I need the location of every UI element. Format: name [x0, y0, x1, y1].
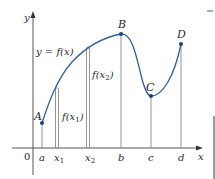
point-B — [119, 32, 123, 36]
label-C: C — [146, 81, 155, 94]
tick-a: a — [39, 152, 45, 163]
y-axis-arrow-icon — [31, 11, 36, 18]
x-axis-arrow-icon — [196, 146, 203, 151]
point-C — [149, 94, 153, 98]
extreme-value-diagram: A B C D y = f(x) y x 0 a x1 x2 b c d f(x… — [0, 0, 215, 179]
label-D: D — [176, 28, 186, 41]
tick-d: d — [178, 152, 184, 163]
label-A: A — [33, 110, 42, 123]
bar-f-x2 — [87, 47, 90, 148]
tick-c: c — [148, 152, 154, 163]
tick-x2: x2 — [85, 152, 95, 165]
tick-x1: x1 — [54, 152, 64, 165]
axes — [12, 11, 203, 175]
value-label-f-x2: f(x2) — [91, 69, 114, 82]
curve-label: y = f(x) — [35, 46, 74, 57]
label-B: B — [117, 18, 126, 31]
bar-f-x1 — [56, 88, 59, 148]
point-D — [179, 42, 183, 46]
value-label-f-x1: f(x1) — [61, 111, 84, 124]
y-axis-label: y — [23, 12, 30, 23]
x-axis-label: x — [198, 151, 204, 162]
tick-b: b — [118, 152, 124, 163]
origin-label: 0 — [24, 151, 30, 162]
